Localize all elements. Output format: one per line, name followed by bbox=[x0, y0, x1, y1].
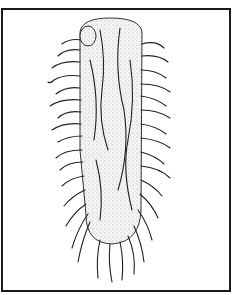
surface-knob bbox=[80, 26, 96, 46]
cylinder-body bbox=[80, 18, 142, 244]
filament-illustration bbox=[0, 0, 234, 295]
